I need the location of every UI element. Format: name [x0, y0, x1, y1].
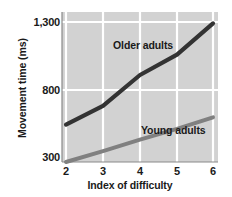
x-tick-label-3: 3 [93, 164, 113, 178]
x-tick-label-5: 5 [167, 164, 187, 178]
x-tick-label-2: 2 [56, 164, 76, 178]
x-axis-tick-labels: 2 3 4 5 6 [0, 164, 232, 180]
y-tick-label-1300: 1,300 [14, 16, 60, 28]
series-annotation-young-adults: Young adults [141, 124, 206, 136]
series-annotation-older-adults: Older adults [113, 39, 173, 51]
y-tick-label-300: 300 [14, 151, 60, 163]
x-tick-label-4: 4 [130, 164, 150, 178]
x-tick-label-6: 6 [203, 164, 223, 178]
x-axis-title: Index of difficulty [40, 179, 220, 191]
movement-time-line-chart: Movement time (ms) 1,300 800 300 2 3 4 5… [0, 0, 232, 197]
y-tick-label-800: 800 [14, 84, 60, 96]
